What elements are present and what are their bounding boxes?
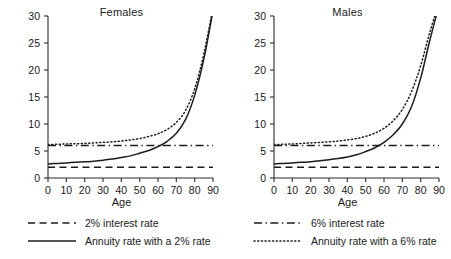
x-tick-label: 90: [207, 184, 219, 196]
legend-label: Annuity rate with a 2% rate: [85, 235, 210, 247]
y-tick-label: 25: [254, 37, 266, 49]
x-tick-label: 50: [360, 184, 372, 196]
y-tick-label: 5: [260, 145, 266, 157]
x-tick-label: 60: [378, 184, 390, 196]
y-tick-label: 15: [28, 91, 40, 103]
x-axis-label-females: Age: [0, 196, 225, 208]
y-tick-label: 5: [34, 145, 40, 157]
legend-key-solid: [26, 235, 78, 247]
y-tick-label: 30: [254, 10, 266, 22]
x-tick-label: 20: [79, 184, 91, 196]
x-tick-label: 80: [189, 184, 201, 196]
series-group-males: [274, 3, 439, 168]
legend-key-dashdot: [252, 217, 304, 229]
chart-panel-females: Females 30 25 20 15 10 5 0: [0, 0, 225, 259]
x-tick-label: 90: [433, 184, 445, 196]
y-tick-label: 25: [28, 37, 40, 49]
x-tick-label: 50: [134, 184, 146, 196]
x-tick-label: 30: [97, 184, 109, 196]
legend-key-dashed: [26, 217, 78, 229]
x-tick-label: 10: [60, 184, 72, 196]
y-tick-label: 0: [260, 172, 266, 184]
figure: Females 30 25 20 15 10 5 0: [0, 0, 451, 259]
chart-panel-males: Males 30 25 20 15 10 5 0: [226, 0, 451, 259]
legend-males: 6% interest rate Annuity rate with a 6% …: [226, 214, 451, 250]
legend-label: 6% interest rate: [311, 217, 385, 229]
x-tick-label: 40: [341, 184, 353, 196]
legend-item: Annuity rate with a 6% rate: [252, 232, 451, 250]
x-axis-males: 0 10 20 30 40 50 60 70 80 90: [271, 178, 445, 196]
x-tick-label: 0: [45, 184, 51, 196]
x-tick-label: 80: [415, 184, 427, 196]
x-axis-label-males: Age: [226, 196, 451, 208]
series-line-annuity-2pct: [48, 11, 213, 164]
plot-area-females: 30 25 20 15 10 5 0 0 1: [0, 0, 225, 200]
y-tick-label: 10: [28, 118, 40, 130]
x-tick-label: 70: [396, 184, 408, 196]
y-tick-label: 15: [254, 91, 266, 103]
x-tick-label: 40: [115, 184, 127, 196]
y-tick-label: 10: [254, 118, 266, 130]
legend-item: Annuity rate with a 2% rate: [26, 232, 225, 250]
x-tick-label: 60: [152, 184, 164, 196]
legend-item: 6% interest rate: [252, 214, 451, 232]
legend-label: Annuity rate with a 6% rate: [311, 235, 436, 247]
x-axis-females: 0 10 20 30 40 50 60 70 80 90: [45, 178, 219, 196]
x-tick-label: 70: [170, 184, 182, 196]
legend-label: 2% interest rate: [85, 217, 159, 229]
series-line-annuity-6pct: [48, 8, 213, 145]
legend-females: 2% interest rate Annuity rate with a 2% …: [0, 214, 225, 250]
y-tick-label: 20: [28, 64, 40, 76]
plot-area-males: 30 25 20 15 10 5 0 0 1: [226, 0, 451, 200]
y-tick-label: 20: [254, 64, 266, 76]
x-tick-label: 20: [305, 184, 317, 196]
x-tick-label: 0: [271, 184, 277, 196]
y-axis-males: 30 25 20 15 10 5 0: [254, 10, 274, 184]
series-line-annuity-6pct: [274, 3, 439, 145]
y-axis-females: 30 25 20 15 10 5 0: [28, 10, 48, 184]
series-group-females: [48, 8, 213, 167]
legend-key-dotted: [252, 235, 304, 247]
y-tick-label: 30: [28, 10, 40, 22]
x-tick-label: 10: [286, 184, 298, 196]
x-tick-label: 30: [323, 184, 335, 196]
y-tick-label: 0: [34, 172, 40, 184]
legend-item: 2% interest rate: [26, 214, 225, 232]
